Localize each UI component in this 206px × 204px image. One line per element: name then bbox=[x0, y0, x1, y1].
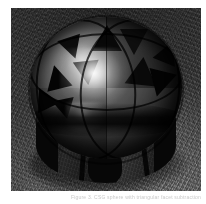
sphere-outer-ring bbox=[28, 15, 184, 165]
page-root: Figure 3. CSG sphere with triangular fac… bbox=[0, 0, 206, 204]
figure-caption: Figure 3. CSG sphere with triangular fac… bbox=[11, 193, 201, 202]
rendered-image bbox=[11, 8, 201, 191]
faceted-sphere bbox=[28, 13, 184, 185]
